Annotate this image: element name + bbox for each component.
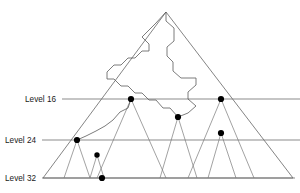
subtree-4-right-edge — [77, 140, 90, 178]
node-dot-n7 — [99, 175, 105, 181]
subtree-4-left-edge — [64, 140, 77, 178]
node-dot-n6 — [94, 152, 99, 157]
node-dot-n3 — [175, 114, 181, 120]
subtree-2-right-edge — [221, 99, 254, 178]
subtree-6-left-edge — [90, 155, 97, 178]
subtree-1-right-edge — [131, 99, 166, 178]
level-label-1: Level 16 — [25, 95, 56, 104]
subtree-6-right-edge — [97, 155, 104, 178]
jagged-frontier-tail-path — [77, 99, 131, 140]
outer-triangle — [43, 12, 293, 178]
hierarchy-triangle-diagram: Level 16Level 24Level 32 — [0, 0, 300, 193]
subtree-3-left-edge — [160, 117, 178, 178]
jagged-frontier-path — [107, 12, 196, 117]
node-marker-group — [74, 96, 224, 181]
subtree-3-right-edge — [178, 117, 197, 178]
node-dot-n5 — [218, 130, 224, 136]
diagram-root: Level 16Level 24Level 32 — [0, 0, 300, 193]
level-label-group: Level 16Level 24Level 32 — [5, 95, 56, 183]
level-label-3: Level 32 — [5, 174, 36, 183]
subtree-1-left-edge — [97, 99, 131, 178]
level-label-2: Level 24 — [5, 136, 36, 145]
outer-triangle-group — [43, 12, 293, 178]
node-dot-n2 — [218, 96, 224, 102]
node-dot-n4 — [74, 137, 80, 143]
jagged-frontier-path-group — [77, 12, 196, 140]
node-dot-n1 — [128, 96, 134, 102]
